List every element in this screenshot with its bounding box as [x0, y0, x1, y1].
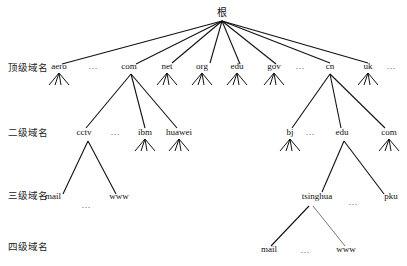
sld-cn-dots: …	[306, 127, 315, 137]
sld-com-dots: …	[111, 127, 120, 137]
edge-cn-to-bj	[292, 74, 330, 128]
fan-cn-com-subtree-icon	[379, 139, 399, 151]
node-ibm: ibm	[138, 127, 152, 137]
node-cctv: cctv	[77, 127, 92, 137]
subtree-fans	[49, 73, 399, 151]
node-aero: aero	[51, 61, 67, 71]
fan-ibm-subtree-icon	[135, 139, 155, 151]
level-label-4: 四级域名	[8, 241, 48, 252]
node-labels: aerocomnetorgedugovcnukcctvibmhuaweibjed…	[45, 61, 398, 254]
fan-edu-subtree-icon	[227, 73, 247, 85]
node-pku: pku	[384, 191, 398, 201]
edu-dots: …	[349, 197, 358, 207]
node-uk: uk	[364, 61, 374, 71]
node-cctv-www: www	[109, 191, 129, 201]
node-org: org	[196, 61, 208, 71]
dns-hierarchy-diagram: aerocomnetorgedugovcnukcctvibmhuaweibjed…	[0, 0, 407, 266]
fan-org-subtree-icon	[192, 73, 212, 85]
cctv-dots: …	[82, 200, 91, 210]
node-edu: edu	[231, 61, 244, 71]
tld-dots-1: …	[89, 61, 98, 71]
edge-root-to-uk	[222, 21, 368, 63]
ellipsis-markers: ……………………	[82, 61, 396, 255]
node-th-mail: mail	[261, 244, 277, 254]
node-com: com	[121, 61, 137, 71]
level-label-2: 二级域名	[8, 127, 48, 138]
node-huawei: huawei	[166, 127, 192, 137]
level-label-3: 三级域名	[8, 190, 48, 201]
node-cn: cn	[326, 61, 335, 71]
fan-huawei-subtree-icon	[169, 139, 189, 151]
root-node-label: 根	[217, 6, 227, 18]
tld-dots-3: …	[387, 61, 396, 71]
th-dots: …	[301, 245, 310, 255]
node-bj: bj	[286, 127, 293, 137]
fan-net-subtree-icon	[157, 73, 177, 85]
fan-aero-subtree-icon	[49, 73, 69, 85]
node-th-www: www	[336, 244, 356, 254]
node-cn-edu: edu	[336, 127, 349, 137]
edge-root-to-org	[210, 21, 222, 63]
node-cn-com: com	[381, 127, 397, 137]
edge-root-to-cn	[222, 21, 330, 63]
level-label-1: 顶级域名	[8, 62, 48, 73]
node-gov: gov	[267, 61, 281, 71]
node-net: net	[162, 61, 173, 71]
edge-cn-edu-to-tsinghua	[322, 141, 344, 192]
edge-com-to-cctv	[86, 74, 131, 128]
edge-root-to-aero	[62, 21, 222, 64]
edge-tsinghua-to-th-mail	[271, 206, 309, 246]
edge-cn-to-cn-edu	[330, 74, 341, 128]
tld-dots-2: …	[296, 61, 305, 71]
level-labels: 顶级域名二级域名三级域名四级域名	[8, 62, 48, 252]
edge-tsinghua-to-th-www	[313, 206, 345, 246]
fan-bj-subtree-icon	[280, 139, 300, 151]
edge-cctv-to-mail	[63, 141, 88, 194]
edge-root-to-gov	[222, 21, 276, 64]
edge-cctv-to-cctv-www	[88, 141, 116, 194]
fan-uk-subtree-icon	[358, 73, 378, 85]
edge-cn-edu-to-pku	[344, 141, 384, 194]
edge-cn-to-cn-com	[330, 74, 385, 128]
fan-gov-subtree-icon	[264, 73, 284, 85]
node-tsinghua: tsinghua	[302, 191, 333, 201]
